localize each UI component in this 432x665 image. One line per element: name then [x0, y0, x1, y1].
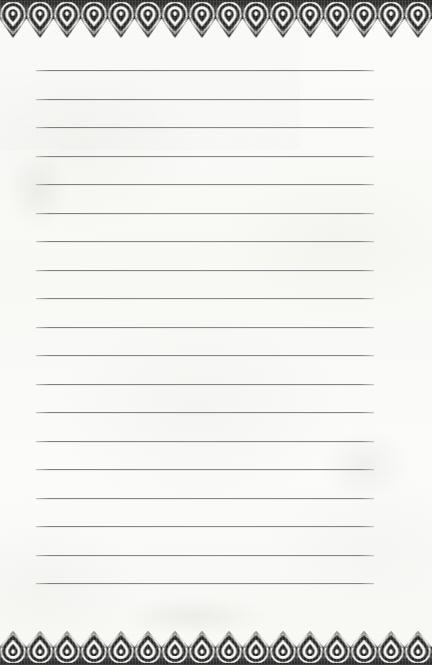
paper-smudge [8, 150, 68, 230]
writing-line [36, 241, 374, 242]
top-border-artwork [0, 0, 432, 38]
paper-grain-texture [0, 0, 300, 150]
paper-smudge [320, 430, 410, 500]
bottom-border-artwork [0, 631, 432, 665]
writing-line [36, 498, 374, 499]
writing-line [36, 441, 374, 442]
writing-line [36, 355, 374, 356]
paper-smudge [120, 596, 270, 636]
writing-line [36, 99, 374, 100]
writing-line [36, 156, 374, 157]
writing-line [36, 526, 374, 527]
ruled-writing-lines [0, 0, 432, 665]
writing-line [36, 184, 374, 185]
top-ornamental-border [0, 0, 432, 38]
writing-line [36, 327, 374, 328]
bottom-ornamental-border [0, 631, 432, 665]
writing-line [36, 70, 374, 71]
writing-line [36, 298, 374, 299]
writing-line [36, 583, 374, 584]
writing-line [36, 213, 374, 214]
writing-line [36, 555, 374, 556]
writing-line [36, 469, 374, 470]
writing-line [36, 412, 374, 413]
writing-line [36, 127, 374, 128]
writing-line [36, 270, 374, 271]
notepaper-page [0, 0, 432, 665]
writing-line [36, 384, 374, 385]
